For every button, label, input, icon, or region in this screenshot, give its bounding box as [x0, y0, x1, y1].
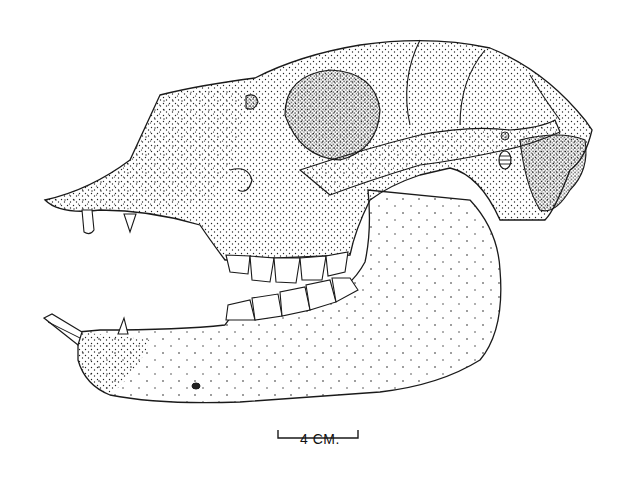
upper-incisor [82, 210, 94, 234]
skull-illustration [0, 0, 623, 483]
mental-foramen [192, 383, 200, 389]
scale-bar-label: 4 CM. [300, 431, 340, 447]
lower-canine [118, 318, 128, 334]
upper-canine [124, 214, 136, 232]
cranium [45, 40, 592, 283]
